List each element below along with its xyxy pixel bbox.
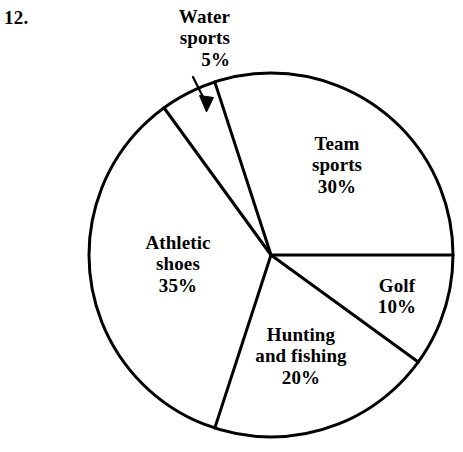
pie-label-water-sports-line2: sports (118, 27, 230, 48)
pie-label-team-sports-line2: sports (282, 154, 392, 175)
pie-label-team-sports: Team sports 30% (282, 133, 392, 197)
pie-label-team-sports-line1: Team (282, 133, 392, 154)
pie-label-hunting-and-fishing: Hunting and fishing 20% (222, 324, 380, 388)
pie-label-athletic-shoes-value: 35% (116, 275, 240, 296)
pie-label-water-sports-value: 5% (118, 49, 230, 70)
pie-label-golf-value: 10% (355, 296, 439, 317)
pie-label-water-sports: Water sports 5% (118, 6, 230, 70)
pie-label-hunting-line1: Hunting (222, 324, 380, 345)
pie-label-team-sports-value: 30% (282, 176, 392, 197)
pie-label-hunting-value: 20% (222, 367, 380, 388)
pie-label-athletic-shoes: Athletic shoes 35% (116, 232, 240, 296)
pie-chart-figure: 12. Water sports 5% Team sports 30% Golf… (0, 0, 463, 452)
pie-label-hunting-line2: and fishing (222, 345, 380, 366)
pie-label-athletic-shoes-line2: shoes (116, 253, 240, 274)
pie-label-golf: Golf 10% (355, 275, 439, 318)
pie-label-water-sports-line1: Water (118, 6, 230, 27)
pie-label-athletic-shoes-line1: Athletic (116, 232, 240, 253)
pie-label-golf-line1: Golf (355, 275, 439, 296)
